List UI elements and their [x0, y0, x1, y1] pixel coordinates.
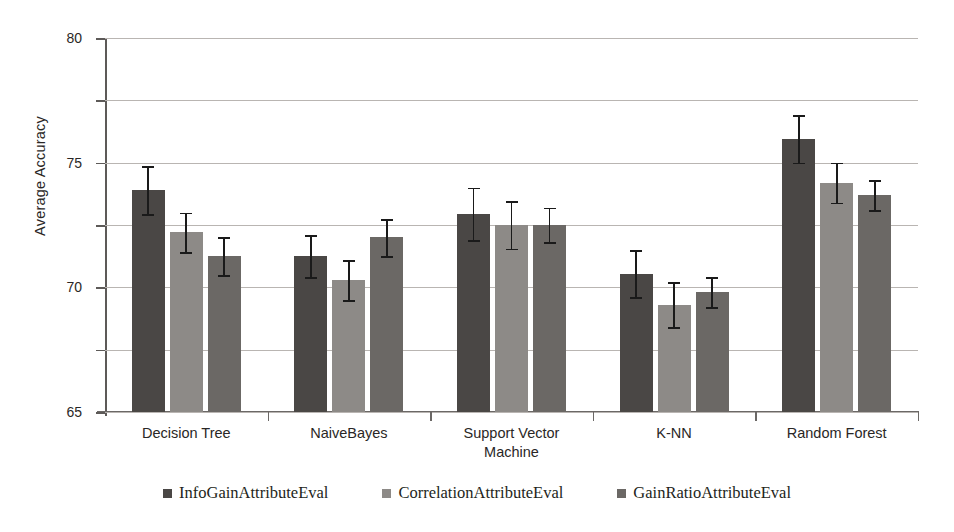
y-axis-title: Average Accuracy	[32, 76, 48, 276]
error-bar-cap-lower	[343, 300, 355, 302]
error-bar	[185, 213, 187, 253]
x-axis-tick	[918, 411, 919, 421]
error-bar-cap-upper	[869, 180, 881, 182]
error-bar-cap-lower	[142, 214, 154, 216]
bar	[132, 190, 165, 412]
x-axis-tick	[593, 411, 594, 421]
y-axis-tick-label: 75	[66, 155, 82, 171]
x-axis-category-label: Random Forest	[755, 424, 918, 443]
error-bar	[798, 115, 800, 162]
error-bar	[386, 219, 388, 256]
error-bar-cap-upper	[180, 213, 192, 215]
error-bar-cap-lower	[468, 240, 480, 242]
error-bar	[473, 188, 475, 240]
x-axis-category-label: Support Vector Machine	[430, 424, 593, 462]
bar	[782, 139, 815, 412]
gridline	[105, 412, 918, 413]
x-axis-tick	[268, 411, 269, 421]
legend-item: CorrelationAttributeEval	[382, 483, 563, 503]
bar	[370, 237, 403, 412]
error-bar-cap-lower	[305, 277, 317, 279]
error-bar	[635, 250, 637, 297]
x-axis-tick	[430, 411, 431, 421]
error-bar	[310, 235, 312, 277]
y-axis-tick: 60	[96, 287, 105, 289]
error-bar-cap-lower	[630, 297, 642, 299]
error-bar-cap-upper	[793, 115, 805, 117]
error-bar	[874, 180, 876, 210]
error-bar-cap-lower	[180, 252, 192, 254]
x-axis-category-label: Decision Tree	[105, 424, 268, 443]
y-axis-tick: 50	[96, 412, 105, 414]
error-bar-cap-lower	[218, 275, 230, 277]
legend-item: InfoGainAttributeEval	[163, 483, 328, 503]
bar	[457, 214, 490, 412]
bar	[820, 183, 853, 412]
error-bar	[223, 237, 225, 274]
legend-item: GainRatioAttributeEval	[617, 483, 791, 503]
error-bar-cap-upper	[668, 282, 680, 284]
bar	[170, 232, 203, 412]
legend-label: CorrelationAttributeEval	[398, 483, 563, 503]
bar	[208, 256, 241, 412]
y-axis-tick: 80	[96, 38, 105, 40]
error-bar-cap-upper	[630, 250, 642, 252]
error-bar-cap-lower	[381, 256, 393, 258]
error-bar-cap-upper	[544, 208, 556, 210]
error-bar-cap-lower	[506, 249, 518, 251]
error-bar-cap-lower	[869, 210, 881, 212]
y-axis-tick-label: 70	[66, 279, 82, 295]
legend-swatch-icon	[163, 489, 172, 498]
error-bar-cap-lower	[831, 203, 843, 205]
error-bar-cap-lower	[668, 327, 680, 329]
error-bar-cap-upper	[381, 219, 393, 221]
bar	[696, 292, 729, 412]
error-bar-cap-upper	[305, 235, 317, 237]
y-axis-tick: 65	[96, 225, 105, 227]
error-bar-cap-upper	[506, 201, 518, 203]
x-axis-category-label: NaiveBayes	[268, 424, 431, 443]
y-axis-tick: 75	[96, 100, 105, 102]
bar	[858, 195, 891, 412]
error-bar-cap-upper	[468, 188, 480, 190]
error-bar	[711, 277, 713, 307]
bar-chart-figure: Average Accuracy 50556065707580 Decision…	[0, 0, 954, 532]
y-axis-tick-label: 60	[66, 529, 82, 532]
legend-label: InfoGainAttributeEval	[179, 483, 328, 503]
x-axis-tick	[755, 411, 756, 421]
bar	[294, 256, 327, 412]
y-axis-tick-label: 80	[66, 30, 82, 46]
error-bar-cap-upper	[218, 237, 230, 239]
error-bar-cap-upper	[706, 277, 718, 279]
error-bar-cap-lower	[544, 242, 556, 244]
legend-label: GainRatioAttributeEval	[633, 483, 791, 503]
x-axis-category-label: K-NN	[593, 424, 756, 443]
error-bar-cap-upper	[343, 260, 355, 262]
y-axis-tick: 70	[96, 163, 105, 165]
y-axis-tick-label: 65	[66, 404, 82, 420]
error-bar	[836, 163, 838, 203]
error-bar	[549, 208, 551, 243]
error-bar	[147, 166, 149, 213]
error-bar-cap-lower	[706, 307, 718, 309]
error-bar-cap-upper	[142, 166, 154, 168]
gridline	[105, 100, 918, 101]
bar	[495, 225, 528, 412]
error-bar	[673, 282, 675, 327]
legend-swatch-icon	[382, 489, 391, 498]
chart-legend: InfoGainAttributeEvalCorrelationAttribut…	[0, 483, 954, 503]
error-bar-cap-lower	[793, 163, 805, 165]
error-bar-cap-upper	[831, 163, 843, 165]
error-bar	[511, 201, 513, 248]
error-bar	[348, 260, 350, 300]
legend-swatch-icon	[617, 489, 626, 498]
gridline	[105, 38, 918, 39]
bar	[533, 225, 566, 412]
plot-area: 50556065707580	[105, 38, 918, 412]
y-axis-tick: 55	[96, 350, 105, 352]
